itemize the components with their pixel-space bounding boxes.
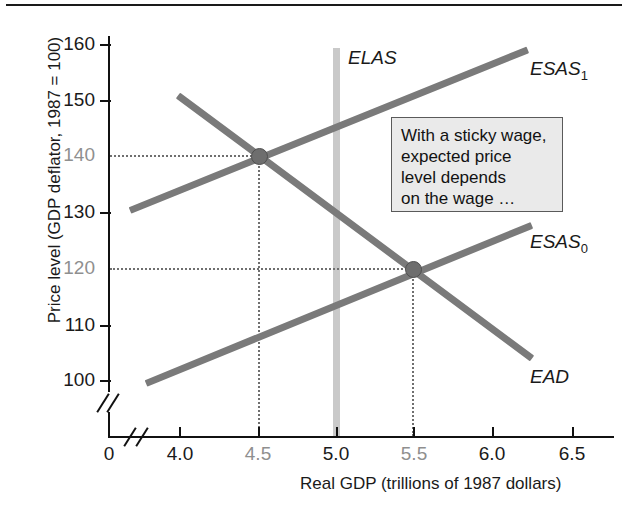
guide-line-vertical-5-5 bbox=[412, 268, 414, 436]
curve-label-esas1-text: ESAS bbox=[530, 58, 581, 79]
equilibrium-dot-1 bbox=[251, 148, 268, 165]
guide-line-horizontal-120 bbox=[110, 268, 414, 270]
x-axis-line bbox=[108, 436, 614, 438]
x-tick-label-4-0: 4.0 bbox=[150, 443, 210, 465]
x-tick-label-5-0: 5.0 bbox=[306, 443, 366, 465]
curve-label-elas: ELAS bbox=[348, 47, 397, 69]
y-tick-label-100: 100 bbox=[49, 369, 95, 391]
x-tick-4-0 bbox=[179, 427, 181, 438]
x-axis-title: Real GDP (trillions of 1987 dollars) bbox=[300, 474, 561, 494]
curve-label-esas0-text: ESAS bbox=[530, 231, 581, 252]
y-axis-title: Price level (GDP deflator, 1987 = 100) bbox=[45, 15, 65, 345]
guide-line-horizontal-140 bbox=[110, 155, 260, 157]
x-tick-label-6-5: 6.5 bbox=[542, 443, 602, 465]
elas-vertical-band bbox=[333, 48, 340, 436]
x-tick-4-5 bbox=[258, 427, 260, 438]
y-tick-160 bbox=[100, 44, 111, 46]
top-divider-rule bbox=[6, 4, 622, 6]
annotation-line-1: With a sticky wage, bbox=[401, 125, 562, 146]
x-tick-label-4-5: 4.5 bbox=[228, 443, 288, 465]
x-tick-6-5 bbox=[572, 427, 574, 438]
economics-chart-figure: 160 150 140 130 120 110 100 0 4.0 4.5 5.… bbox=[0, 0, 622, 515]
annotation-textbox: With a sticky wage, expected price level… bbox=[391, 117, 563, 212]
x-tick-6-0 bbox=[492, 427, 494, 438]
x-tick-label-5-5: 5.5 bbox=[384, 443, 444, 465]
annotation-line-2: expected price bbox=[401, 146, 562, 167]
curve-label-ead: EAD bbox=[530, 366, 569, 388]
y-axis-lower-stub bbox=[108, 412, 110, 438]
x-tick-5-5 bbox=[413, 427, 415, 438]
y-tick-100 bbox=[100, 380, 111, 382]
guide-line-vertical-4-5 bbox=[258, 155, 260, 436]
curve-label-esas0-subscript: 0 bbox=[581, 241, 588, 256]
x-tick-label-6-0: 6.0 bbox=[462, 443, 522, 465]
y-tick-150 bbox=[100, 100, 111, 102]
annotation-line-3: level depends bbox=[401, 167, 562, 188]
curve-label-esas1-subscript: 1 bbox=[581, 68, 588, 83]
curve-label-esas0: ESAS0 bbox=[530, 231, 588, 256]
annotation-line-4: on the wage … bbox=[401, 188, 562, 209]
y-axis-line bbox=[108, 36, 110, 392]
curve-label-esas1: ESAS1 bbox=[530, 58, 588, 83]
y-tick-110 bbox=[100, 325, 111, 327]
equilibrium-dot-2 bbox=[405, 261, 422, 278]
x-tick-label-0: 0 bbox=[79, 443, 139, 465]
x-tick-5-0 bbox=[336, 427, 338, 438]
y-tick-130 bbox=[100, 212, 111, 214]
